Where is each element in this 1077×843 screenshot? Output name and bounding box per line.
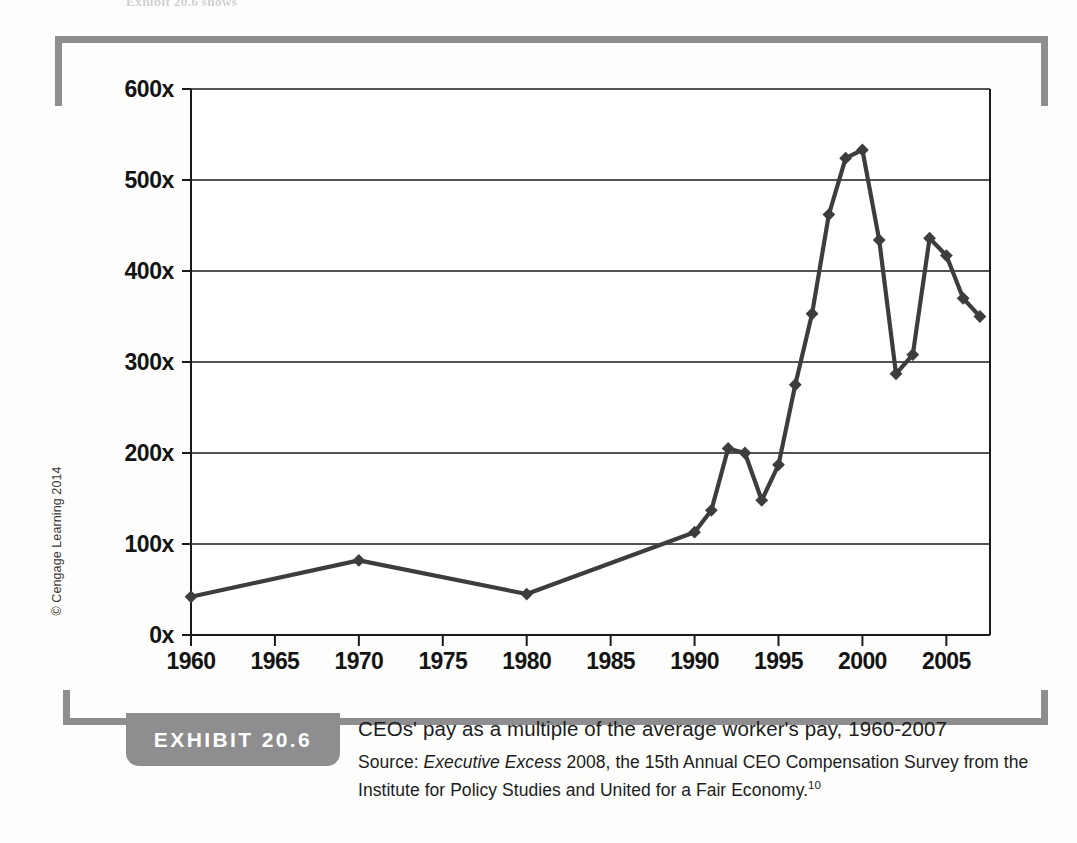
- exhibit-caption-source: Source: Executive Excess 2008, the 15th …: [358, 748, 1048, 805]
- y-axis-label-200: 200x: [124, 440, 174, 467]
- source-prefix: Source:: [358, 752, 424, 772]
- x-axis-label-2000: 2000: [838, 648, 887, 675]
- chart-container: 0x100x200x300x400x500x600x 1960196519701…: [0, 0, 1077, 700]
- y-axis-label-400: 400x: [124, 258, 174, 285]
- x-axis-label-1990: 1990: [670, 648, 719, 675]
- exhibit-page: Exhibit 20.6 shows © Cengage Learning 20…: [0, 0, 1077, 843]
- y-axis-label-500: 500x: [124, 167, 174, 194]
- y-axis-label-300: 300x: [124, 349, 174, 376]
- source-footnote-marker: 10: [808, 780, 821, 792]
- x-axis-label-1970: 1970: [334, 648, 383, 675]
- x-axis-label-1975: 1975: [418, 648, 467, 675]
- x-axis-label-1965: 1965: [251, 648, 300, 675]
- y-axis-label-0: 0x: [149, 622, 174, 649]
- y-axis-tick-labels: 0x100x200x300x400x500x600x: [92, 0, 174, 700]
- y-axis-label-600: 600x: [124, 76, 174, 103]
- source-publication-title: Executive Excess: [424, 752, 562, 772]
- exhibit-badge: EXHIBIT 20.6: [126, 713, 340, 766]
- x-axis-label-1985: 1985: [586, 648, 635, 675]
- exhibit-caption-title: CEOs' pay as a multiple of the average w…: [358, 714, 1048, 743]
- y-axis-label-100: 100x: [124, 531, 174, 558]
- exhibit-caption: CEOs' pay as a multiple of the average w…: [358, 714, 1048, 805]
- x-axis-label-1980: 1980: [502, 648, 551, 675]
- x-axis-label-2005: 2005: [922, 648, 971, 675]
- x-axis-label-1995: 1995: [754, 648, 803, 675]
- x-axis-label-1960: 1960: [167, 648, 216, 675]
